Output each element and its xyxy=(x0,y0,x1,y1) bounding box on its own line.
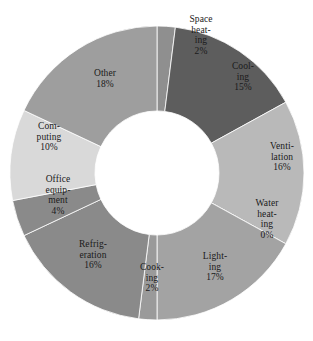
donut-slices-group xyxy=(10,26,304,320)
donut-chart-svg xyxy=(0,0,313,341)
donut-chart: Space heat- ing2%Cool- ing15%Venti- lati… xyxy=(0,0,313,341)
